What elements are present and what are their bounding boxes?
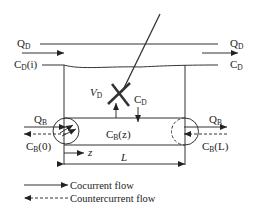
label-cb-l: CB(L) [202, 140, 229, 154]
dialysate-surface-line [42, 65, 218, 68]
legend-cocurrent: Cocurrent flow [70, 180, 134, 191]
label-cd-out: CD [230, 58, 243, 72]
label-cd-in: CD(i) [14, 58, 37, 72]
fiber-inlet-circle [53, 118, 79, 144]
label-vd: VD [90, 86, 103, 100]
label-qb-out: QB [209, 113, 222, 127]
label-cd-local: CD [134, 93, 147, 107]
stirrer-shaft [122, 14, 160, 92]
legend-countercurrent: Countercurrent flow [70, 193, 156, 204]
label-z: z [87, 146, 93, 158]
dialyzer-diagram: QD CD(i) QD CD VD CD CB(z) QB CB(0) QB C… [0, 0, 254, 217]
label-qd-in: QD [17, 37, 31, 51]
label-cb-0: CB(0) [26, 140, 52, 154]
label-qb-in: QB [34, 113, 47, 127]
fiber-outlet-solid-arc [185, 118, 199, 145]
label-cb-z: CB(z) [106, 128, 131, 142]
fiber-outlet-dashed-arc [172, 118, 186, 145]
label-length: L [120, 151, 127, 163]
label-qd-out: QD [230, 37, 244, 51]
